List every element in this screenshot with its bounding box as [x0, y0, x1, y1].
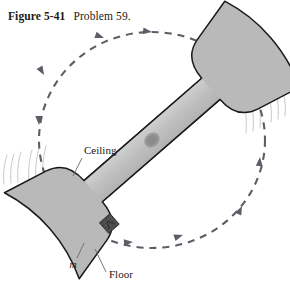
figure-illustration: Ceiling m Floor: [0, 0, 290, 293]
figure-container: Figure 5-41Problem 59.: [0, 0, 290, 293]
arrowhead-icon: [94, 32, 105, 41]
arrowhead-icon: [256, 157, 264, 167]
arrowhead-icon: [143, 27, 153, 35]
arrowhead-icon: [37, 66, 47, 77]
floor-leader-line: [95, 249, 106, 272]
mass-label: m: [69, 259, 76, 270]
ceiling-leader-line: [73, 158, 82, 176]
arrowhead-icon: [173, 232, 184, 241]
floor-label: Floor: [109, 268, 133, 280]
rotating-body: [4, 0, 290, 279]
arrowhead-icon: [235, 205, 245, 216]
ceiling-label: Ceiling: [84, 144, 117, 156]
